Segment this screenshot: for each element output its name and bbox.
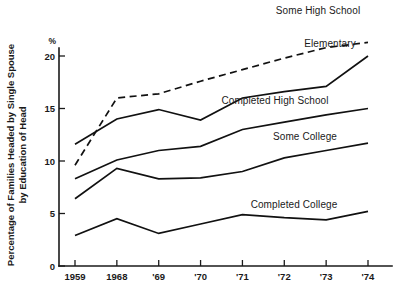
percent-unit-label: % — [48, 36, 56, 46]
series-label-completed-high-school: Completed High School — [221, 95, 328, 106]
y-axis-title-line1: Percentage of Families Headed by Single … — [5, 44, 16, 266]
x-tick-label: '70 — [194, 271, 207, 282]
x-tick-label: '73 — [320, 271, 333, 282]
series-labels-group: Some High SchoolElementaryCompleted High… — [221, 5, 360, 210]
y-axis-title: Percentage of Families Headed by Single … — [5, 44, 28, 266]
y-axis-title-line2: by Education of Head — [17, 106, 28, 203]
series-line-some-college — [75, 143, 368, 199]
series-line-completed-college — [75, 211, 368, 235]
y-axis-ticks: 05101520 — [44, 51, 65, 272]
y-tick-label: 20 — [44, 51, 55, 62]
x-tick-label: '74 — [362, 271, 376, 282]
y-tick-label: 0 — [50, 261, 55, 272]
y-tick-label: 10 — [44, 156, 55, 167]
y-tick-label: 15 — [44, 103, 55, 114]
y-tick-label: 5 — [50, 208, 56, 219]
x-tick-label: '72 — [278, 271, 291, 282]
series-label-completed-college: Completed College — [251, 199, 338, 210]
x-tick-label: 1968 — [106, 271, 127, 282]
x-tick-label: '71 — [236, 271, 250, 282]
x-axis-ticks: 19591968'69'70'71'72'73'74 — [64, 260, 375, 282]
x-tick-label: '69 — [152, 271, 165, 282]
x-tick-label: 1959 — [64, 271, 85, 282]
chart-container: Percentage of Families Headed by Single … — [0, 0, 404, 295]
series-label-some-college: Some College — [273, 131, 337, 142]
series-label-elementary: Elementary — [304, 38, 356, 49]
line-chart: Percentage of Families Headed by Single … — [0, 0, 404, 295]
series-label-some-high-school: Some High School — [276, 5, 360, 16]
